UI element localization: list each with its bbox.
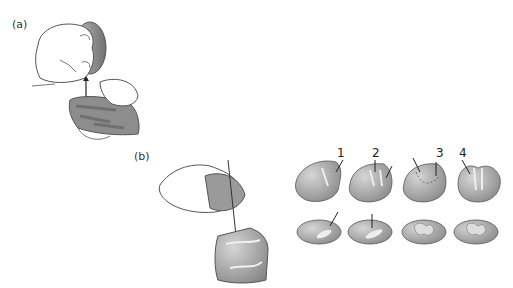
- step-cores-bottom: [297, 212, 498, 244]
- core-top-view-3: [402, 220, 446, 244]
- core-top-view-2: [348, 214, 392, 244]
- core-top-view-4: [454, 220, 498, 244]
- illustration: [0, 0, 513, 288]
- step-cores-top: [295, 158, 500, 202]
- core-step-4: [458, 160, 500, 202]
- panel-a-illustration: [32, 22, 139, 139]
- core-step-2: [349, 160, 392, 202]
- core-top-view-1: [297, 212, 341, 244]
- core-step-1: [295, 160, 343, 202]
- panel-b-illustration: [159, 160, 268, 283]
- core-step-3: [403, 158, 446, 202]
